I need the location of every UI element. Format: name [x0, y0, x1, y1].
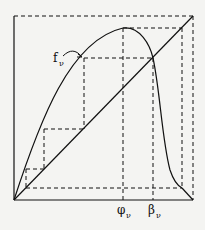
arrow-icon — [63, 51, 81, 56]
beta-label: β — [148, 203, 155, 217]
cobweb-diagram: f ν φ ν β ν — [0, 0, 205, 230]
diagonal-line — [14, 16, 193, 200]
curve-label-sub: ν — [59, 59, 64, 68]
phi-label-sub: ν — [126, 211, 131, 220]
phi-label: φ — [117, 203, 125, 217]
corner-diagonal — [182, 188, 193, 200]
beta-label-sub: ν — [156, 211, 161, 220]
